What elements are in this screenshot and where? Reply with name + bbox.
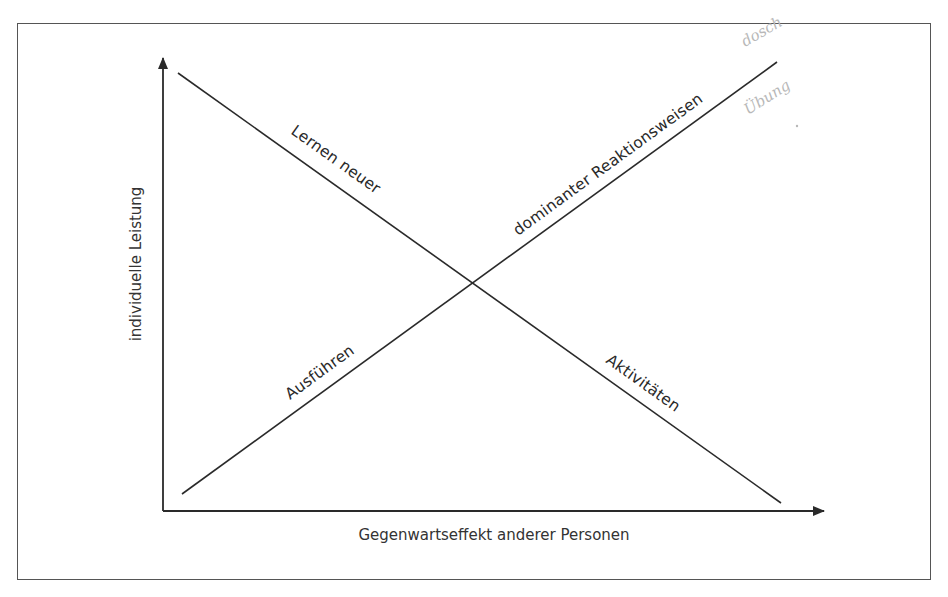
handwritten-mark [796,125,798,127]
handwritten-note-line1: dosch [738,13,785,51]
diagram-canvas: Lernen neuer Aktivitäten Ausführen domin… [0,0,948,597]
line-lernen-neuer-aktivitaeten [178,73,781,503]
label-aktivitaeten: Aktivitäten [603,351,684,416]
y-axis-label: individuelle Leistung [127,187,145,342]
line-ausfuehren-dominanter-reaktionsweisen [182,62,777,494]
label-dominanter-reaktionsweisen: dominanter Reaktionsweisen [510,90,706,240]
social-facilitation-diagram: Lernen neuer Aktivitäten Ausführen domin… [0,0,948,597]
x-axis-label: Gegenwartseffekt anderer Personen [358,526,629,544]
